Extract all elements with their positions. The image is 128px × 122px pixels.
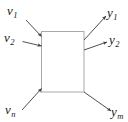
- input-label-vn-subscript: n: [11, 109, 15, 119]
- input-label-v1: v1: [7, 4, 17, 17]
- system-block-rect: [42, 32, 85, 93]
- input-label-vn-symbol: v: [5, 102, 11, 117]
- input-label-v1-symbol: v: [7, 3, 13, 18]
- block-diagram-canvas: v1 v2 vn y1 y2 ym: [0, 0, 128, 122]
- output-arrow-ym: [84, 92, 111, 111]
- output-arrow-y1: [84, 16, 106, 40]
- output-label-y1-symbol: y: [107, 5, 113, 20]
- input-label-vn: vn: [5, 103, 15, 116]
- output-label-ym-symbol: y: [111, 104, 117, 119]
- input-arrow-v2: [23, 42, 42, 47]
- output-label-y2: y2: [109, 33, 119, 46]
- output-label-ym-subscript: m: [117, 111, 123, 121]
- input-arrow-vn: [22, 89, 42, 111]
- output-label-y2-subscript: 2: [115, 39, 119, 49]
- input-label-v2-symbol: v: [4, 30, 10, 45]
- input-label-v2: v2: [4, 31, 14, 44]
- output-label-y1-subscript: 1: [113, 12, 117, 22]
- output-arrow-y2: [84, 42, 107, 50]
- output-label-y1: y1: [107, 6, 117, 19]
- output-label-y2-symbol: y: [109, 32, 115, 47]
- output-label-ym: ym: [111, 105, 123, 118]
- input-arrow-v1: [26, 20, 42, 37]
- input-label-v2-subscript: 2: [10, 37, 14, 47]
- input-label-v1-subscript: 1: [13, 10, 17, 20]
